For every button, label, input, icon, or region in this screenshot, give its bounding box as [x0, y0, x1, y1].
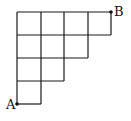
staircase-grid	[0, 0, 131, 121]
point-b-label: B	[114, 5, 124, 18]
point-a-label: A	[6, 98, 15, 111]
point-b-dot	[109, 10, 113, 14]
point-a-dot	[15, 102, 19, 106]
